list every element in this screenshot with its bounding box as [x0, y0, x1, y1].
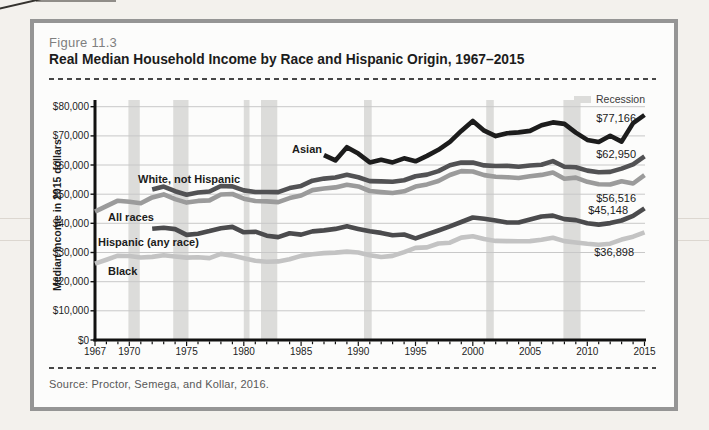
- x-tick-label: 1980: [233, 346, 256, 357]
- x-tick-label: 2010: [576, 346, 599, 357]
- page: Figure 11.3 Real Median Household Income…: [0, 0, 709, 430]
- white_not_hispanic-label: White, not Hispanic: [138, 173, 240, 185]
- all_races-end-value: $56,516: [596, 192, 636, 204]
- x-tick-label: 2000: [462, 346, 485, 357]
- source-citation: Source: Proctor, Semega, and Kollar, 201…: [49, 378, 269, 390]
- x-tick-label: 1995: [404, 346, 427, 357]
- asian-label: Asian: [292, 143, 322, 155]
- x-tick-label: 1975: [175, 346, 198, 357]
- hispanic-label: Hispanic (any race): [98, 236, 199, 248]
- y-axis-title: Median income in 2015 dollars: [51, 139, 63, 291]
- black-label: Black: [108, 265, 138, 277]
- x-tick-label: 1990: [347, 346, 370, 357]
- y-tick-label: $80,000: [53, 101, 90, 112]
- black-end-value: $36,898: [594, 246, 634, 258]
- y-tick-label: $0: [78, 335, 90, 346]
- x-tick-label: 1967: [84, 346, 107, 357]
- hispanic-end-value: $45,148: [588, 204, 628, 216]
- x-tick-label: 1970: [118, 346, 141, 357]
- dashed-divider-bottom: [49, 367, 656, 369]
- x-tick-label: 2005: [519, 346, 542, 357]
- income-chart: $0$10,000$20,000$30,000$40,000$50,000$60…: [0, 0, 709, 430]
- x-tick-label: 1985: [290, 346, 313, 357]
- y-tick-label: $10,000: [53, 305, 90, 316]
- white_not_hispanic-end-value: $62,950: [596, 148, 636, 160]
- asian-end-value: $77,166: [596, 112, 636, 124]
- x-tick-label: 2015: [633, 346, 656, 357]
- all_races-label: All races: [108, 211, 154, 223]
